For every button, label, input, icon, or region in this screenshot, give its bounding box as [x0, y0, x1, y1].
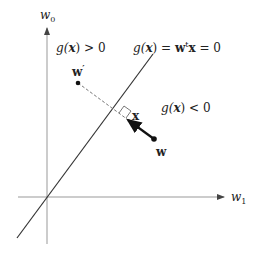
decision-boundary-line — [17, 54, 153, 238]
w-prime-label: w′ — [71, 64, 85, 79]
x-axis-label: w1 — [231, 190, 246, 206]
point-w — [151, 136, 157, 142]
region-negative-label: g(x) < 0 — [161, 101, 211, 115]
x-label: x — [132, 109, 140, 123]
w-label: w — [155, 145, 167, 159]
region-positive-label: g(x) > 0 — [56, 41, 106, 55]
y-axis-label: w0 — [40, 8, 55, 24]
boundary-equation-label: g(x) = wtx = 0 — [133, 40, 221, 55]
point-w-prime — [76, 81, 81, 86]
right-angle-marker — [119, 106, 131, 118]
diagram-canvas: w0 w1 g(x) > 0 g(x) < 0 g(x) = wtx = 0 w… — [0, 0, 257, 254]
